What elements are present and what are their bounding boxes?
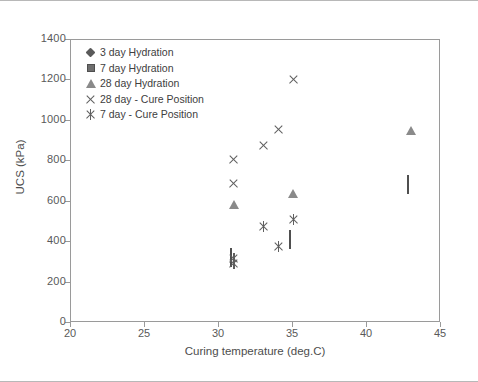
x-tick-label: 40 xyxy=(346,327,386,339)
legend-marker xyxy=(84,93,97,106)
square-marker-icon xyxy=(407,175,409,194)
square-marker-icon xyxy=(87,64,95,72)
data-point xyxy=(289,231,291,249)
data-point xyxy=(406,109,416,127)
legend-label: 7 day - Cure Position xyxy=(100,108,198,121)
legend-label: 28 day Hydration xyxy=(100,77,179,90)
asterisk-marker-icon xyxy=(85,109,96,120)
legend-marker xyxy=(84,62,97,75)
data-point xyxy=(288,172,298,190)
x-axis-title: Curing temperature (deg.C) xyxy=(70,345,440,357)
legend-item: 7 day - Cure Position xyxy=(84,107,204,123)
triangle-marker-icon xyxy=(86,79,96,88)
y-tick-label: 1400 xyxy=(41,32,66,44)
y-tick-label: 600 xyxy=(47,194,66,206)
legend-marker xyxy=(84,77,97,90)
data-point xyxy=(407,176,409,194)
x-tick-label: 20 xyxy=(50,327,90,339)
legend-item: 3 day Hydration xyxy=(84,45,204,61)
square-marker-icon xyxy=(289,230,291,249)
triangle-marker-icon xyxy=(288,172,298,198)
triangle-marker-icon xyxy=(406,109,416,135)
x-tick-label: 45 xyxy=(420,327,460,339)
legend-item: 28 day - Cure Position xyxy=(84,92,204,108)
legend-item: 7 day Hydration xyxy=(84,61,204,77)
y-tick-label: 0 xyxy=(60,315,66,327)
y-tick-label: 800 xyxy=(47,153,66,165)
diamond-marker-icon xyxy=(86,48,96,58)
legend-marker xyxy=(84,108,97,121)
legend-label: 3 day Hydration xyxy=(100,46,174,59)
scatter-chart: UCS (kPa) 0200400600800100012001400 2025… xyxy=(0,0,478,382)
legend-label: 28 day - Cure Position xyxy=(100,93,204,106)
legend-label: 7 day Hydration xyxy=(100,62,174,75)
legend-marker xyxy=(84,46,97,59)
chart-legend: 3 day Hydration7 day Hydration28 day Hyd… xyxy=(84,45,204,123)
y-tick-label: 1200 xyxy=(41,72,66,84)
legend-item: 28 day Hydration xyxy=(84,76,204,92)
y-tick-label: 200 xyxy=(47,275,66,287)
y-axis-title: UCS (kPa) xyxy=(14,107,26,227)
x-tick-label: 35 xyxy=(272,327,312,339)
x-tick-label: 30 xyxy=(198,327,238,339)
y-tick-label: 1000 xyxy=(41,113,66,125)
y-tick-label: 400 xyxy=(47,234,66,246)
cross-marker-icon xyxy=(85,94,96,105)
x-tick-label: 25 xyxy=(124,327,164,339)
